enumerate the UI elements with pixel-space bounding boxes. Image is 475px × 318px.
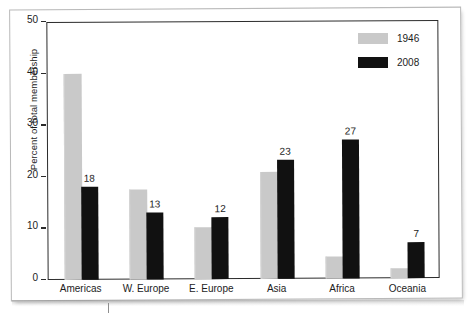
legend-label-2008: 2008 [397, 57, 419, 68]
bar-group: 12 [194, 21, 229, 279]
y-tick-label: 50 [27, 14, 38, 25]
bar-1946-asia[interactable] [260, 172, 279, 279]
y-axis-tick: 30 [18, 124, 46, 125]
bar-value-label: 27 [345, 125, 356, 136]
bar-1946-e-europe[interactable] [195, 228, 213, 280]
bar-1946-w-europe[interactable] [129, 189, 147, 279]
x-axis-label: Oceania [389, 283, 426, 294]
y-tick-line [41, 73, 46, 74]
legend: 1946 2008 [358, 33, 434, 81]
legend-swatch-2008-icon [358, 57, 388, 68]
y-tick-line [41, 21, 46, 22]
y-tick-line [41, 124, 46, 125]
y-axis-tick: 20 [18, 176, 46, 177]
bar-group: 13 [128, 21, 163, 279]
y-tick-line [41, 176, 46, 177]
y-axis-title: Percent of total membership [28, 30, 39, 190]
bar-value-label: 13 [149, 198, 160, 209]
bar-2008-africa[interactable]: 27 [342, 139, 360, 278]
x-axis-label: Americas [60, 283, 102, 294]
bar-1946-africa[interactable] [326, 257, 344, 279]
bar-2008-w-europe[interactable]: 13 [146, 212, 163, 279]
bar-value-label: 12 [215, 203, 226, 214]
bar-1946-americas[interactable] [63, 73, 82, 279]
bar-2008-e-europe[interactable]: 12 [212, 217, 229, 279]
x-axis-label: Africa [329, 283, 355, 294]
legend-swatch-1946-icon [358, 33, 388, 44]
bar-2008-americas[interactable]: 18 [81, 187, 98, 280]
bar-1946-oceania[interactable] [391, 268, 409, 278]
bar-2008-asia[interactable]: 23 [277, 160, 295, 279]
y-tick-label: 40 [27, 66, 38, 77]
y-tick-line [41, 227, 46, 228]
legend-item-1946[interactable]: 1946 [358, 33, 434, 44]
x-axis-label: E. Europe [189, 283, 233, 294]
bar-group: 23 [259, 21, 294, 279]
bar-group: 18 [63, 22, 98, 280]
y-axis-tick: 10 [18, 227, 46, 228]
y-tick-label: 30 [27, 117, 38, 128]
y-tick-label: 0 [32, 272, 38, 283]
y-axis-tick: 50 [18, 21, 46, 22]
y-tick-line [41, 279, 46, 280]
legend-label-1946: 1946 [397, 33, 419, 44]
x-axis-label: W. Europe [123, 283, 170, 294]
y-axis-tick: 0 [18, 279, 46, 280]
bar-group: 27 [324, 20, 359, 278]
y-tick-label: 10 [27, 220, 38, 231]
bar-value-label: 23 [280, 146, 291, 157]
x-axis-label: Asia [267, 283, 286, 294]
y-axis-tick: 40 [18, 73, 46, 74]
bar-value-label: 7 [413, 228, 419, 239]
legend-item-2008[interactable]: 2008 [358, 57, 434, 68]
bar-value-label: 18 [84, 173, 95, 184]
bar-2008-oceania[interactable]: 7 [408, 242, 425, 278]
y-tick-label: 20 [27, 169, 38, 180]
bar-chart: Percent of total membership 50403020100 … [0, 0, 475, 318]
